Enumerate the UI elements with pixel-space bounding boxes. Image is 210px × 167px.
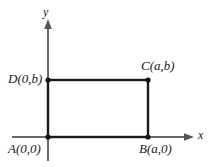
y-axis-label: y — [43, 6, 48, 18]
y-axis-arrowhead — [44, 19, 52, 29]
vertex-dot-d — [45, 77, 50, 82]
vertex-label-a: A(0,0) — [8, 142, 41, 155]
vertex-label-c: C(a,b) — [141, 59, 175, 72]
x-axis-label: x — [198, 129, 203, 141]
vertex-dot-c — [145, 77, 150, 82]
rectangle-abcd — [48, 80, 148, 137]
vertex-label-d: D(0,b) — [8, 72, 42, 85]
coordinate-figure: D(0,b) C(a,b) A(0,0) B(a,0) x y — [0, 0, 210, 167]
vertex-label-b: B(a,0) — [139, 142, 172, 155]
vertex-dot-a — [45, 134, 50, 139]
x-axis-arrowhead — [184, 133, 194, 141]
vertex-dot-b — [145, 134, 150, 139]
